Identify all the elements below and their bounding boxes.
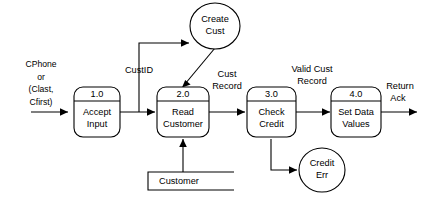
process-2-number: 2.0 [177, 89, 190, 99]
process-3[interactable]: 3.0 Check Credit [247, 87, 296, 137]
flow-label-custid: CustID [125, 65, 153, 75]
entity-credit-err-line2: Err [316, 170, 328, 180]
process-2-label-line1: Read [172, 107, 194, 117]
flow-return-ack [381, 108, 417, 116]
process-1-number: 1.0 [91, 89, 104, 99]
flow-valid-cust-record [296, 108, 330, 116]
flow-customer-store-to-read [179, 139, 187, 172]
flow-label-return-ack: Return Ack [386, 81, 414, 103]
entity-credit-err-line1: Credit [310, 158, 335, 168]
entity-credit-err[interactable]: Credit Err [299, 148, 345, 192]
process-4-label-line2: Values [342, 119, 370, 129]
process-4-number: 4.0 [350, 89, 363, 99]
flow-label-return-ack-line2: Ack [390, 93, 406, 103]
flow-label-valid-cust-line2: Record [297, 76, 327, 86]
entity-create-cust-line2: Cust [206, 26, 225, 36]
process-3-label-line1: Check [258, 107, 284, 117]
flow-input-to-accept [31, 108, 68, 116]
process-1-label-line2: Input [87, 119, 108, 129]
flow-label-cust-record-line1: Cust [218, 69, 237, 79]
process-3-number: 3.0 [265, 89, 278, 99]
flow-label-cust-record: Cust Record [212, 69, 242, 91]
entity-create-cust[interactable]: Create Cust [190, 3, 240, 49]
input-source-line3: (Clast, [29, 84, 54, 94]
input-source-line1: CPhone [25, 59, 56, 69]
process-2-label-line2: Customer [163, 119, 203, 129]
input-source-label: CPhone or (Clast, Cfirst) [25, 59, 56, 107]
process-4[interactable]: 4.0 Set Data Values [331, 87, 381, 137]
flow-label-cust-record-line2: Record [212, 81, 242, 91]
datastore-customer[interactable]: Customer [148, 172, 234, 190]
process-4-label-line1: Set Data [338, 107, 375, 117]
process-2[interactable]: 2.0 Read Customer [157, 87, 209, 137]
flow-label-custid-text: CustID [125, 65, 153, 75]
flow-label-return-ack-line1: Return [386, 81, 414, 91]
flow-custid [120, 108, 155, 116]
input-source-line4: Cfirst) [30, 97, 53, 107]
flow-cust-record [209, 108, 245, 116]
flow-label-valid-cust-line1: Valid Cust [291, 64, 333, 74]
flow-label-valid-cust-record: Valid Cust Record [291, 64, 333, 86]
flow-credit-err [271, 139, 297, 174]
flow-create-cust-to-read [182, 48, 215, 88]
process-3-label-line2: Credit [259, 119, 284, 129]
datastore-customer-label: Customer [159, 176, 199, 186]
process-1[interactable]: 1.0 Accept Input [74, 87, 120, 137]
entity-create-cust-line1: Create [201, 14, 229, 24]
process-1-label-line1: Accept [83, 107, 112, 117]
data-flow-diagram: 1.0 Accept Input 2.0 Read Customer 3.0 C… [0, 0, 427, 206]
dfd-canvas: 1.0 Accept Input 2.0 Read Customer 3.0 C… [0, 0, 427, 206]
input-source-line2: or [37, 72, 45, 82]
